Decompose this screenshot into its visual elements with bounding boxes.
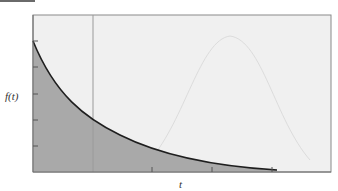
y-axis-label: f(t)	[5, 90, 18, 102]
chart-plot	[0, 0, 338, 191]
x-axis-label: t	[179, 178, 182, 190]
